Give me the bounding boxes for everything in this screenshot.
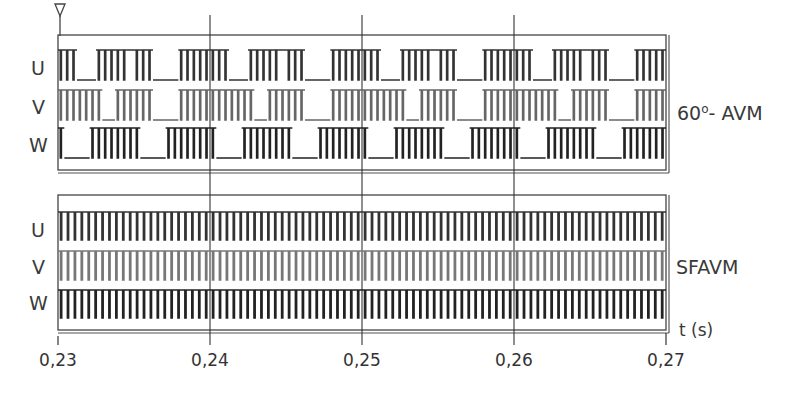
- row-label-v-top: V: [32, 98, 45, 117]
- x-axis-unit: t (s): [679, 322, 713, 339]
- panel-label-60-avm: 60o- AVM: [677, 103, 763, 123]
- degree-sign: o: [701, 102, 708, 116]
- waveform-plot: [0, 0, 791, 393]
- x-tick-label: 0,25: [343, 352, 381, 369]
- panel-label-main: 60: [677, 102, 701, 124]
- trigger-marker-icon: [55, 4, 65, 36]
- row-label-w-bottom: W: [29, 294, 48, 313]
- row-label-u-bottom: U: [31, 221, 45, 240]
- row-label-w-top: W: [29, 136, 48, 155]
- row-label-v-bottom: V: [32, 258, 45, 277]
- x-tick-label: 0,27: [647, 352, 685, 369]
- x-tick-label: 0,26: [495, 352, 533, 369]
- panel-label-rest: - AVM: [709, 102, 763, 124]
- panel-label-sfavm: SFAVM: [676, 258, 738, 277]
- x-tick-label: 0,24: [191, 352, 229, 369]
- row-label-u-top: U: [31, 59, 45, 78]
- x-tick-label: 0,23: [39, 352, 77, 369]
